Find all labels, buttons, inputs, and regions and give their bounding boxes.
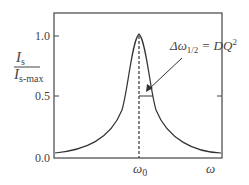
ylabel-denominator: Is-max: [13, 66, 43, 84]
ytick-label-0.0: 0.0: [35, 151, 50, 165]
ytick-label-0.5: 0.5: [35, 89, 50, 103]
annotation-arrow: [149, 58, 182, 89]
resonance-chart: 1.0 0.5 0.0 Is Is-max ω0 ω Δω1/2 = DQ2: [0, 0, 249, 185]
ytick-label-1.0: 1.0: [35, 29, 50, 43]
xtick-label-omega0: ω0: [133, 161, 147, 178]
ylabel-numerator: Is: [15, 49, 25, 67]
annotation-text: Δω1/2 = DQ2: [169, 37, 237, 55]
x-axis-label: ω: [206, 161, 215, 176]
